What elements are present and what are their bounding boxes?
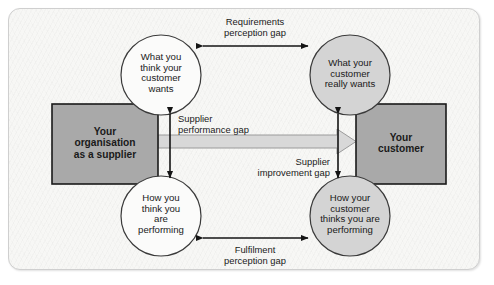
fulfilment-perception-gap-label: Fulfilment perception gap — [191, 244, 319, 266]
label-line: performance gap — [178, 124, 298, 135]
circle-what-you-think-customer-wants — [121, 35, 201, 115]
diagram-canvas: What you think your customer wants What … — [0, 0, 494, 285]
circle-how-customer-thinks-you-are-performing — [310, 176, 390, 256]
diagram-shapes — [0, 0, 494, 285]
label-line: Supplier — [202, 156, 330, 167]
label-line: Supplier — [178, 113, 298, 124]
circle-what-customer-really-wants — [310, 35, 390, 115]
label-line: Requirements — [191, 16, 319, 27]
your-customer-box — [356, 104, 446, 184]
label-line: perception gap — [191, 255, 319, 266]
circle-how-you-think-you-are-performing — [121, 176, 201, 256]
supplier-improvement-gap-label: Supplier improvement gap — [202, 156, 330, 178]
your-organisation-box — [52, 104, 158, 184]
label-line: improvement gap — [202, 167, 330, 178]
requirements-perception-gap-label: Requirements perception gap — [191, 16, 319, 38]
label-line: Fulfilment — [191, 244, 319, 255]
label-line: perception gap — [191, 27, 319, 38]
supplier-performance-gap-label: Supplier performance gap — [178, 113, 298, 135]
